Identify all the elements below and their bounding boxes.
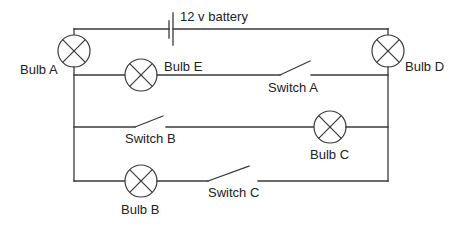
bulb-e-label: Bulb E [164, 59, 203, 74]
bulb-c-label: Bulb C [310, 147, 349, 162]
switch-c-label: Switch C [208, 185, 259, 200]
bulb-e-icon [125, 59, 157, 91]
bulb-c-icon [314, 111, 346, 143]
switch-c-icon [208, 166, 249, 181]
switch-b-label: Switch B [125, 131, 176, 146]
battery-label: 12 v battery [180, 9, 248, 24]
bulb-d-label: Bulb D [405, 59, 444, 74]
circuit-svg: 12 v battery Bulb A Bulb D Bulb E [0, 0, 463, 226]
bulb-a-label: Bulb A [20, 62, 58, 77]
bulb-a-icon [58, 35, 90, 67]
switch-a-label: Switch A [268, 80, 318, 95]
circuit-diagram: 12 v battery Bulb A Bulb D Bulb E [0, 0, 463, 226]
bulb-b-label: Bulb B [121, 202, 159, 217]
switch-a-icon [280, 61, 310, 75]
switch-b-icon [135, 116, 163, 127]
bulb-b-icon [125, 165, 157, 197]
top-wire [74, 29, 388, 35]
bulb-d-icon [372, 35, 404, 67]
battery-icon [169, 13, 173, 45]
